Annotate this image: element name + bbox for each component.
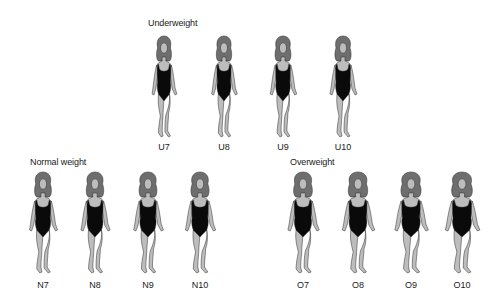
- silhouette-icon: [73, 172, 117, 276]
- silhouette-icon: [21, 172, 65, 276]
- body-figure-u10: [321, 36, 365, 140]
- body-figure-o7: [281, 172, 325, 276]
- figure-label: O10: [442, 280, 482, 290]
- figure-label: N9: [128, 280, 168, 290]
- figure-label: U8: [204, 142, 244, 152]
- figure-label: O9: [391, 280, 431, 290]
- silhouette-icon: [126, 172, 170, 276]
- silhouette-icon: [261, 36, 305, 140]
- body-figure-n10: [178, 172, 222, 276]
- body-figure-o8: [336, 172, 380, 276]
- body-figure-u9: [261, 36, 305, 140]
- figure-label: U10: [323, 142, 363, 152]
- group-title-underweight: Underweight: [148, 18, 197, 28]
- figure-label: N8: [75, 280, 115, 290]
- silhouette-icon: [389, 172, 433, 276]
- silhouette-icon: [142, 36, 186, 140]
- silhouette-icon: [178, 172, 222, 276]
- silhouette-icon: [321, 36, 365, 140]
- body-figure-n7: [21, 172, 65, 276]
- figure-label: U9: [263, 142, 303, 152]
- body-figure-u7: [142, 36, 186, 140]
- silhouette-icon: [202, 36, 246, 140]
- silhouette-icon: [440, 172, 484, 276]
- figure-label: N7: [23, 280, 63, 290]
- group-title-overweight: Overweight: [290, 157, 335, 167]
- silhouette-icon: [281, 172, 325, 276]
- figure-label: O8: [338, 280, 378, 290]
- figure-label: U7: [144, 142, 184, 152]
- body-figure-u8: [202, 36, 246, 140]
- body-figure-o9: [389, 172, 433, 276]
- body-figure-o10: [440, 172, 484, 276]
- figure-label: O7: [283, 280, 323, 290]
- silhouette-icon: [336, 172, 380, 276]
- body-figure-n9: [126, 172, 170, 276]
- group-title-normal-weight: Normal weight: [30, 157, 86, 167]
- figure-label: N10: [180, 280, 220, 290]
- body-figure-n8: [73, 172, 117, 276]
